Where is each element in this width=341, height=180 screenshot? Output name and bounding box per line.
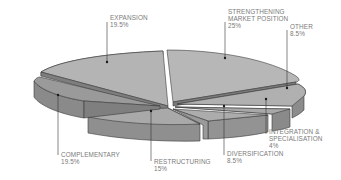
label-strengthening-line2: MARKET POSITION xyxy=(228,15,288,22)
label-other-value: 8.5% xyxy=(290,30,313,37)
label-strengthening-market-position: STRENGTHENING MARKET POSITION 25% xyxy=(228,8,288,30)
label-diversification-value: 8.5% xyxy=(227,157,283,164)
label-restructuring: RESTRUCTURING 15% xyxy=(154,158,211,172)
label-integration-value: 4% xyxy=(269,142,323,149)
label-expansion-name: EXPANSION xyxy=(110,14,148,21)
label-integration-line2: SPECIALISATION xyxy=(269,135,323,142)
label-complementary-value: 19.5% xyxy=(61,158,120,165)
label-diversification-name: DIVERSIFICATION xyxy=(227,150,283,157)
label-expansion-value: 19.5% xyxy=(110,21,148,28)
label-diversification: DIVERSIFICATION 8.5% xyxy=(227,150,283,164)
label-other-name: OTHER xyxy=(290,23,313,30)
label-restructuring-value: 15% xyxy=(154,165,211,172)
label-restructuring-name: RESTRUCTURING xyxy=(154,158,211,165)
label-integration-line1: INTEGRATION & xyxy=(269,128,323,135)
label-complementary: COMPLEMENTARY 19.5% xyxy=(61,151,120,165)
label-expansion: EXPANSION 19.5% xyxy=(110,14,148,28)
label-complementary-name: COMPLEMENTARY xyxy=(61,151,120,158)
label-integration-specialisation: INTEGRATION & SPECIALISATION 4% xyxy=(269,128,323,150)
label-strengthening-value: 25% xyxy=(228,22,288,29)
label-other: OTHER 8.5% xyxy=(290,23,313,37)
label-strengthening-line1: STRENGTHENING xyxy=(228,8,288,15)
leader-strengthening xyxy=(224,22,226,59)
